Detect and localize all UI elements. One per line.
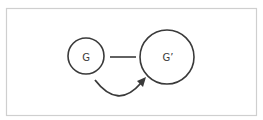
diagram-canvas: G G’ xyxy=(0,0,263,120)
node-g-prime-label: G’ xyxy=(163,52,174,63)
node-g-prime: G’ xyxy=(140,30,194,84)
node-g-label: G xyxy=(82,52,90,63)
diagram-frame xyxy=(7,9,257,116)
node-g: G xyxy=(68,38,104,74)
